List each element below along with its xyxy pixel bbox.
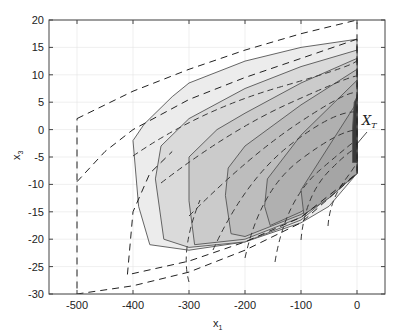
y-tick-label: 20 bbox=[32, 14, 44, 26]
x-tick-label: -300 bbox=[178, 299, 200, 311]
x-tick-label: -400 bbox=[122, 299, 144, 311]
y-tick-label: 5 bbox=[38, 96, 44, 108]
y-tick-label: 10 bbox=[32, 69, 44, 81]
x-tick-label: -500 bbox=[66, 299, 88, 311]
y-tick-labels: 20 15 10 5 0 -5 -10 -15 -20 -25 -30 bbox=[28, 14, 44, 300]
y-tick-label: -15 bbox=[28, 206, 44, 218]
x-tick-labels: -500 -400 -300 -200 -100 0 bbox=[66, 299, 360, 311]
y-tick-label: -25 bbox=[28, 261, 44, 273]
svg-text:x3: x3 bbox=[10, 151, 24, 161]
y-tick-label: -5 bbox=[34, 151, 44, 163]
x-tick-label: -200 bbox=[234, 299, 256, 311]
x-tick-label: 0 bbox=[354, 299, 360, 311]
y-tick-label: -10 bbox=[28, 178, 44, 190]
y-tick-label: -20 bbox=[28, 233, 44, 245]
x-axis-label: x1 bbox=[213, 317, 223, 331]
y-tick-label: 0 bbox=[38, 124, 44, 136]
y-axis-label: x3 bbox=[10, 151, 24, 161]
y-tick-label: -30 bbox=[28, 288, 44, 300]
y-tick-label: 15 bbox=[32, 41, 44, 53]
chart-plot: -500 -400 -300 -200 -100 0 20 15 10 5 0 … bbox=[0, 0, 404, 331]
x-tick-label: -100 bbox=[290, 299, 312, 311]
